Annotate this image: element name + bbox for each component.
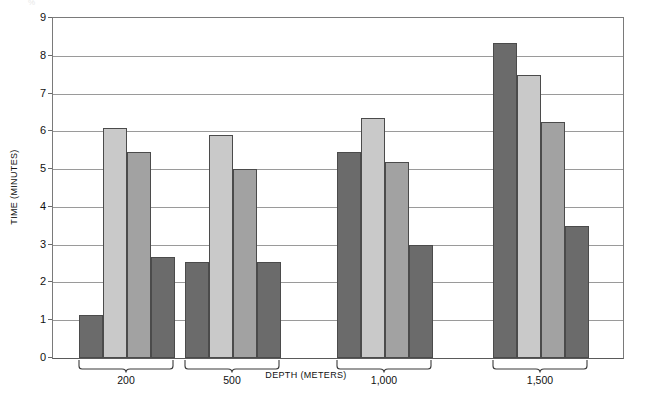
bar xyxy=(541,122,565,358)
y-axis-tick-label: 3 xyxy=(24,238,46,250)
y-axis-tick-label: 6 xyxy=(24,124,46,136)
group-bracket xyxy=(78,359,174,372)
bar xyxy=(361,118,385,358)
y-axis-tick-mark xyxy=(48,93,52,94)
y-axis-tick-label: 0 xyxy=(24,351,46,363)
bar xyxy=(127,152,151,358)
bar xyxy=(257,262,281,358)
bar xyxy=(409,245,433,358)
y-axis-tick-label: 4 xyxy=(24,200,46,212)
bar xyxy=(151,257,175,358)
x-axis-title: DEPTH (METERS) xyxy=(236,370,376,380)
y-axis-tick-label: 1 xyxy=(24,313,46,325)
bar xyxy=(493,43,517,358)
bar xyxy=(103,128,127,358)
y-axis-title: TIME (MINUTES) xyxy=(9,127,19,247)
bar xyxy=(79,315,103,358)
y-axis-tick-mark xyxy=(48,281,52,282)
bar-chart: % TIME (MINUTES) 0123456789 2005001,0001… xyxy=(0,0,652,398)
bars-layer xyxy=(53,18,623,358)
bar xyxy=(233,169,257,358)
x-axis-group-label: 200 xyxy=(78,374,174,386)
bar xyxy=(209,135,233,358)
y-axis-tick-mark xyxy=(48,206,52,207)
bar xyxy=(185,262,209,358)
y-axis-tick-label: 5 xyxy=(24,162,46,174)
y-axis-tick-label: 2 xyxy=(24,275,46,287)
y-axis-tick-mark xyxy=(48,130,52,131)
y-axis-tick-mark xyxy=(48,55,52,56)
bar xyxy=(337,152,361,358)
y-axis-tick-mark xyxy=(48,168,52,169)
y-axis-tick-mark xyxy=(48,244,52,245)
y-axis-tick-mark xyxy=(48,319,52,320)
group-bracket xyxy=(492,359,588,372)
y-axis-tick-mark xyxy=(48,17,52,18)
y-axis-tick-label: 9 xyxy=(24,11,46,23)
bar xyxy=(517,75,541,358)
x-axis-group-label: 1,500 xyxy=(492,374,588,386)
plot-area xyxy=(52,17,624,359)
y-axis-tick-label: 7 xyxy=(24,87,46,99)
y-axis-tick-labels: 0123456789 xyxy=(22,0,46,398)
y-axis-tick-label: 8 xyxy=(24,49,46,61)
y-axis-tick-mark xyxy=(48,357,52,358)
bar xyxy=(385,162,409,358)
bar xyxy=(565,226,589,358)
